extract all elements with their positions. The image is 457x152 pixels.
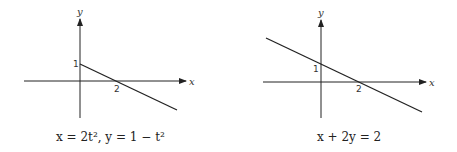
left-y-label: y [76, 6, 83, 17]
left-graph: x y 1 2 [24, 6, 195, 118]
left-x-label: x [189, 76, 195, 87]
right-graph: x y 1 2 [263, 7, 435, 118]
left-caption: x = 2t², y = 1 − t² [56, 130, 165, 144]
left-x-tick: 2 [114, 84, 120, 94]
right-line [266, 38, 422, 112]
right-y-tick: 1 [313, 64, 319, 74]
right-caption: x + 2y = 2 [317, 130, 381, 144]
right-x-label: x [429, 77, 435, 88]
left-curve [80, 64, 177, 110]
right-x-tick: 2 [356, 84, 362, 94]
right-y-label: y [317, 7, 324, 18]
left-y-tick: 1 [73, 59, 79, 69]
